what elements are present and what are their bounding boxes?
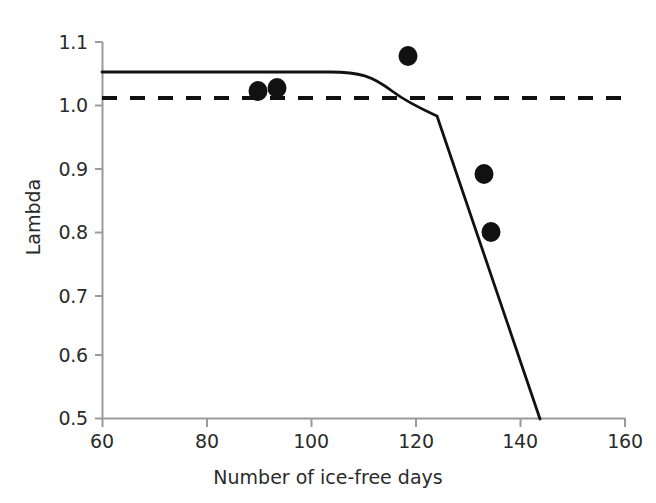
data-point [249, 81, 268, 101]
y-axis-ticks [95, 42, 103, 419]
observed-data-points [249, 46, 501, 242]
x-tick-label-160: 160 [595, 430, 655, 452]
data-point [268, 78, 287, 98]
y-tick-label-0-5: 0.5 [28, 407, 88, 429]
data-point [399, 46, 418, 66]
x-axis-title: Number of ice-free days [0, 466, 656, 488]
y-tick-label-1-1: 1.1 [28, 31, 88, 53]
chart-plot-area [0, 0, 656, 503]
y-axis-title: Lambda [22, 167, 44, 267]
fitted-model-curve [102, 72, 540, 419]
y-tick-label-0-7: 0.7 [28, 285, 88, 307]
chart-figure: 1.1 1.0 0.9 0.8 0.7 0.6 0.5 60 80 100 12… [0, 0, 656, 503]
y-tick-label-0-6: 0.6 [28, 344, 88, 366]
data-point [482, 222, 501, 242]
x-tick-label-100: 100 [281, 430, 341, 452]
x-axis-ticks [103, 419, 626, 428]
x-tick-label-80: 80 [177, 430, 237, 452]
x-tick-label-120: 120 [386, 430, 446, 452]
x-tick-label-60: 60 [72, 430, 132, 452]
y-tick-label-1-0: 1.0 [28, 94, 88, 116]
data-point [475, 164, 494, 184]
x-tick-label-140: 140 [490, 430, 550, 452]
